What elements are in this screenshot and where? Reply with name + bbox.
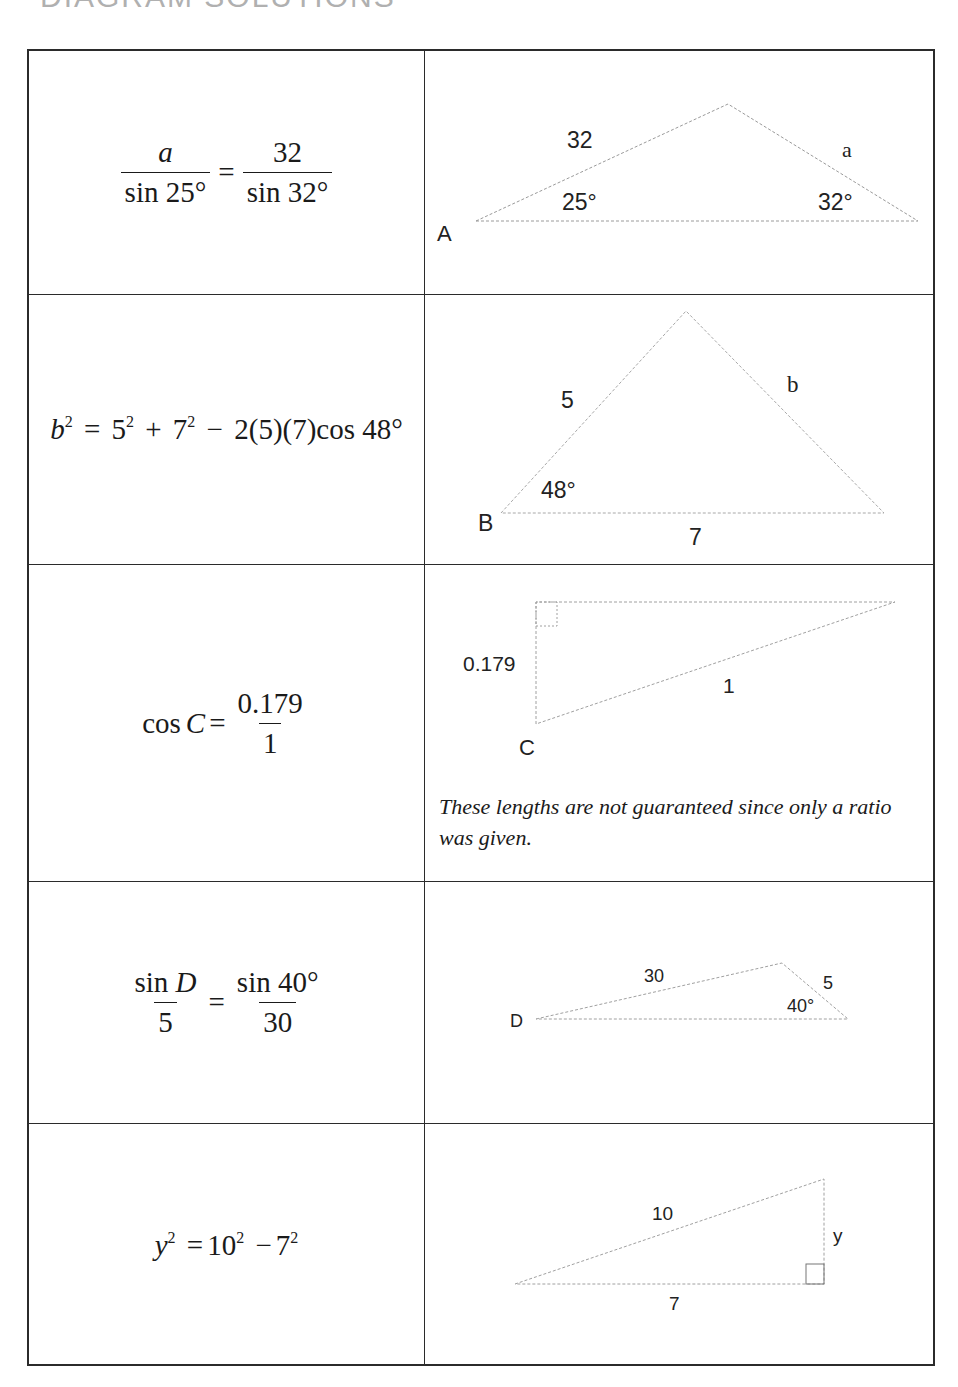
- fraction: a sin 25°: [121, 136, 211, 209]
- vertex-label: D: [510, 1011, 523, 1031]
- numerator: a: [158, 136, 173, 168]
- function-name: sin: [134, 966, 168, 998]
- variable: C: [186, 707, 205, 740]
- exponent: 2: [65, 413, 73, 430]
- variable: b: [50, 413, 65, 445]
- vertex-label: C: [519, 735, 535, 760]
- right-triangle-diagram: 0.179 1 C: [425, 565, 935, 775]
- exponent: 2: [168, 1229, 176, 1246]
- numerator: sin 40°: [233, 966, 323, 1002]
- exponent: 2: [290, 1229, 298, 1246]
- variable: y: [155, 1229, 168, 1261]
- side-label: 1: [723, 674, 735, 697]
- angle-label: 25°: [562, 189, 597, 215]
- angle-label: 32°: [818, 189, 853, 215]
- right-triangle-diagram: 10 y 7: [425, 1124, 935, 1367]
- equation-cell: cos C = 0.179 1: [29, 565, 424, 881]
- denominator: sin 32°: [243, 172, 333, 209]
- equals-sign: =: [208, 986, 224, 1019]
- vertex-label: B: [478, 510, 493, 536]
- side-label: b: [787, 372, 799, 397]
- fraction: 32 sin 32°: [243, 136, 333, 209]
- diagram-cell: B 5 b 7 48°: [425, 295, 933, 564]
- term: 7: [173, 413, 188, 445]
- right-angle-marker: [806, 1264, 824, 1284]
- diagram-cell: 0.179 1 C These lengths are not guarante…: [425, 565, 933, 881]
- term: 10: [207, 1229, 236, 1261]
- side-label: y: [833, 1225, 843, 1246]
- fraction: 0.179 1: [234, 687, 307, 760]
- equals-sign: =: [84, 413, 100, 445]
- diagram-cell: D 30 5 40°: [425, 882, 933, 1123]
- table-row: b2 = 52 + 72 − 2(5)(7)cos 48° B 5 b 7 48…: [29, 294, 933, 564]
- numerator: 0.179: [234, 687, 307, 723]
- denominator: 5: [154, 1002, 177, 1039]
- minus-sign: −: [207, 413, 223, 445]
- plus-sign: +: [145, 413, 161, 445]
- table-row: cos C = 0.179 1 0.179 1 C These lengths …: [29, 564, 933, 881]
- term: 2(5)(7)cos 48°: [234, 413, 403, 445]
- page-title: DIAGRAM SOLUTIONS: [40, 0, 396, 14]
- equation-cell: b2 = 52 + 72 − 2(5)(7)cos 48°: [29, 295, 424, 564]
- side-label: 7: [689, 524, 702, 550]
- triangle-diagram: D 30 5 40°: [425, 882, 935, 1124]
- side-label: a: [842, 137, 852, 162]
- table-row: a sin 25° = 32 sin 32° A 32 a 25° 32°: [29, 51, 933, 294]
- diagram-cell: 10 y 7: [425, 1124, 933, 1366]
- variable: D: [176, 966, 197, 998]
- side-label: 32: [567, 127, 593, 153]
- angle-label: 48°: [541, 477, 576, 503]
- exponent: 2: [236, 1229, 244, 1246]
- equals-sign: =: [218, 156, 234, 189]
- side-label: 5: [823, 973, 833, 993]
- exponent: 2: [126, 413, 134, 430]
- solutions-table: a sin 25° = 32 sin 32° A 32 a 25° 32° b2: [27, 49, 935, 1366]
- triangle-diagram: A 32 a 25° 32°: [425, 51, 935, 294]
- equation-cell: y2 =102 −72: [29, 1124, 424, 1366]
- exponent: 2: [187, 413, 195, 430]
- angle-label: 40°: [787, 996, 814, 1016]
- numerator: 32: [269, 136, 306, 172]
- side-label: 30: [644, 966, 664, 986]
- equals-sign: =: [209, 707, 225, 740]
- fraction: sin D 5: [130, 966, 200, 1039]
- equation-cell: sin D 5 = sin 40° 30: [29, 882, 424, 1123]
- diagram-note: These lengths are not guaranteed since o…: [439, 791, 919, 853]
- equals-sign: =: [187, 1229, 203, 1261]
- term: 7: [276, 1229, 291, 1261]
- triangle-diagram: B 5 b 7 48°: [425, 295, 935, 565]
- side-label: 0.179: [463, 652, 516, 675]
- denominator: 30: [259, 1002, 296, 1039]
- diagram-cell: A 32 a 25° 32°: [425, 51, 933, 294]
- fraction: sin 40° 30: [233, 966, 323, 1039]
- vertex-label: A: [437, 221, 452, 246]
- denominator: sin 25°: [121, 172, 211, 209]
- equation-cell: a sin 25° = 32 sin 32°: [29, 51, 424, 294]
- right-angle-marker: [536, 602, 557, 626]
- term: 5: [112, 413, 127, 445]
- table-row: sin D 5 = sin 40° 30 D 30 5 40°: [29, 881, 933, 1123]
- table-row: y2 =102 −72 10 y 7: [29, 1123, 933, 1366]
- side-label: 5: [561, 387, 574, 413]
- side-label: 10: [652, 1203, 673, 1224]
- side-label: 7: [669, 1293, 680, 1314]
- minus-sign: −: [255, 1229, 271, 1261]
- function-name: cos: [142, 707, 181, 740]
- denominator: 1: [259, 723, 282, 760]
